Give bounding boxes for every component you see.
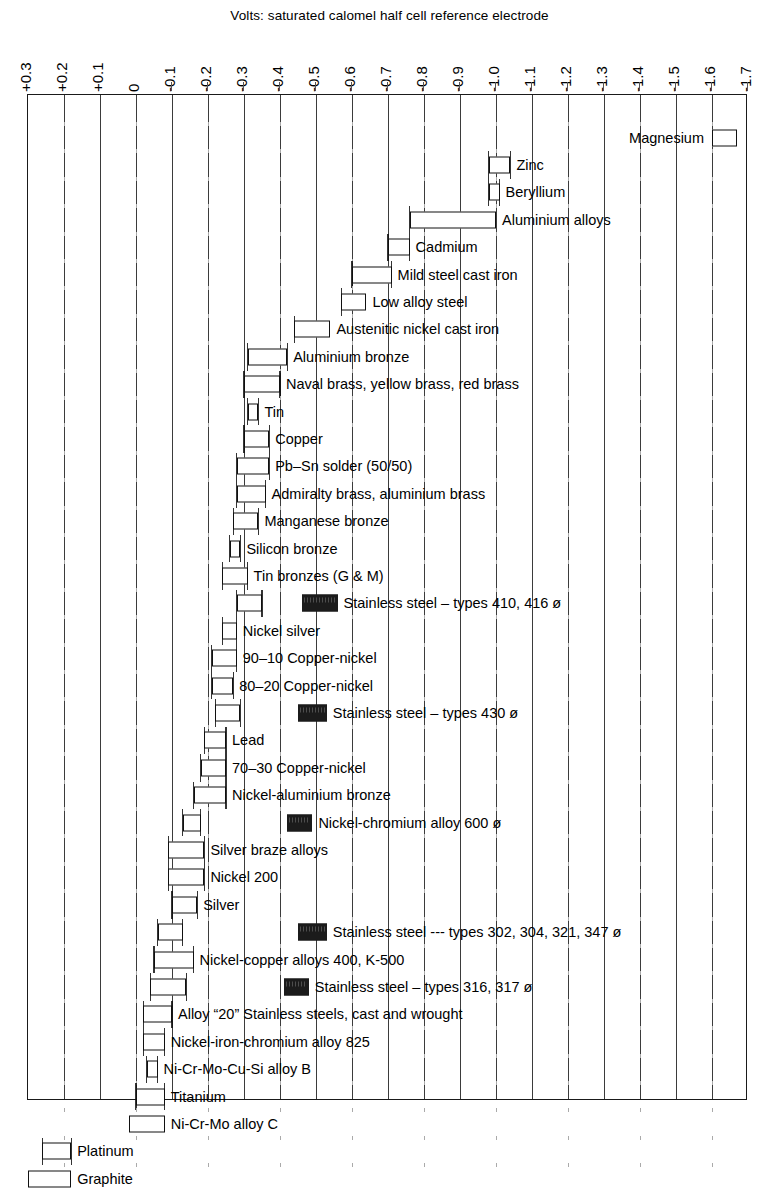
- row-label: Nickel-copper alloys 400, K-500: [200, 952, 405, 967]
- minor-tick-dot: [64, 259, 65, 263]
- active-range-bar[interactable]: [294, 321, 330, 338]
- bar-connector-stub: [294, 316, 295, 343]
- axis-tick-mark: [207, 82, 208, 91]
- minor-tick-dot: [424, 1054, 425, 1058]
- passive-range-bar[interactable]: [284, 979, 309, 996]
- minor-tick-dot: [712, 1163, 713, 1167]
- bar-connector-stub: [269, 453, 270, 480]
- minor-tick-dot: [640, 1108, 641, 1112]
- active-range-bar[interactable]: [388, 239, 410, 256]
- row-label: Manganese bronze: [264, 514, 388, 529]
- minor-tick-dot: [640, 1026, 641, 1030]
- bar-connector-stub: [269, 425, 270, 452]
- active-range-bar[interactable]: [410, 211, 496, 228]
- minor-tick-dot: [64, 560, 65, 564]
- active-range-bar[interactable]: [352, 266, 392, 283]
- minor-tick-dot: [352, 286, 353, 290]
- minor-tick-dot: [280, 889, 281, 893]
- minor-tick-dot: [424, 1081, 425, 1085]
- minor-tick-dot: [568, 451, 569, 455]
- active-range-bar[interactable]: [212, 650, 237, 667]
- active-range-bar[interactable]: [172, 896, 197, 913]
- bar-connector-stub: [236, 480, 237, 507]
- active-range-bar[interactable]: [237, 485, 266, 502]
- axis-tick-label: -0.6: [342, 66, 357, 92]
- minor-tick-dot: [424, 396, 425, 400]
- active-range-bar[interactable]: [222, 622, 236, 639]
- minor-tick-dot: [640, 670, 641, 674]
- minor-tick-dot: [208, 149, 209, 153]
- active-range-bar[interactable]: [42, 1143, 71, 1160]
- minor-tick-dot: [352, 122, 353, 126]
- minor-tick-dot: [640, 725, 641, 729]
- row-label: Stainless steel – types 430 ø: [333, 706, 518, 721]
- minor-tick-dot: [280, 588, 281, 592]
- minor-tick-dot: [640, 1054, 641, 1058]
- active-range-bar[interactable]: [248, 348, 288, 365]
- minor-tick-dot: [136, 1163, 137, 1167]
- bar-connector-stub: [258, 398, 259, 425]
- bar-connector-stub: [240, 535, 241, 562]
- active-range-bar[interactable]: [129, 1116, 165, 1133]
- minor-tick-dot: [136, 1136, 137, 1140]
- active-range-bar[interactable]: [168, 842, 204, 859]
- active-range-bar[interactable]: [201, 759, 226, 776]
- chart-row: Tin: [28, 398, 746, 425]
- active-range-bar[interactable]: [237, 595, 262, 612]
- active-range-bar[interactable]: [712, 129, 737, 146]
- minor-tick-dot: [352, 834, 353, 838]
- minor-tick-dot: [64, 780, 65, 784]
- active-range-bar[interactable]: [150, 979, 186, 996]
- active-range-bar[interactable]: [154, 951, 194, 968]
- active-range-bar[interactable]: [183, 814, 201, 831]
- active-range-bar[interactable]: [244, 376, 280, 393]
- minor-tick-dot: [424, 341, 425, 345]
- active-range-bar[interactable]: [28, 1170, 71, 1187]
- axis-tick-mark: [423, 82, 424, 91]
- active-range-bar[interactable]: [212, 677, 234, 694]
- passive-range-bar[interactable]: [302, 595, 338, 612]
- bar-connector-stub: [157, 919, 158, 946]
- minor-tick-dot: [352, 533, 353, 537]
- active-range-bar[interactable]: [489, 157, 511, 174]
- active-range-bar[interactable]: [143, 1006, 172, 1023]
- bar-connector-stub: [341, 288, 342, 315]
- axis-tick-mark: [351, 82, 352, 91]
- minor-tick-dot: [280, 862, 281, 866]
- passive-range-bar[interactable]: [298, 705, 327, 722]
- minor-tick-dot: [568, 396, 569, 400]
- axis-tick-mark: [315, 82, 316, 91]
- minor-tick-dot: [208, 423, 209, 427]
- chart-row: Silicon bronze: [28, 535, 746, 562]
- minor-tick-dot: [208, 369, 209, 373]
- minor-tick-dot: [280, 286, 281, 290]
- minor-tick-dot: [352, 341, 353, 345]
- minor-tick-dot: [496, 204, 497, 208]
- active-range-bar[interactable]: [168, 869, 204, 886]
- passive-range-bar[interactable]: [287, 814, 312, 831]
- active-range-bar[interactable]: [215, 705, 240, 722]
- minor-tick-dot: [640, 944, 641, 948]
- minor-tick-dot: [496, 506, 497, 510]
- active-range-bar[interactable]: [244, 431, 269, 448]
- minor-tick-dot: [424, 423, 425, 427]
- galvanic-series-plot-area: MagnesiumZincBerylliumAluminium alloysCa…: [27, 94, 747, 1100]
- passive-range-bar[interactable]: [298, 924, 327, 941]
- minor-tick-dot: [640, 588, 641, 592]
- active-range-bar[interactable]: [222, 568, 247, 585]
- minor-tick-dot: [712, 259, 713, 263]
- active-range-bar[interactable]: [204, 732, 226, 749]
- minor-tick-dot: [712, 478, 713, 482]
- active-range-bar[interactable]: [341, 294, 366, 311]
- active-range-bar[interactable]: [136, 1088, 165, 1105]
- active-range-bar[interactable]: [158, 924, 183, 941]
- active-range-bar[interactable]: [194, 787, 226, 804]
- active-range-bar[interactable]: [233, 513, 258, 530]
- minor-tick-dot: [712, 807, 713, 811]
- active-range-bar[interactable]: [143, 1033, 165, 1050]
- active-range-bar[interactable]: [237, 458, 269, 475]
- minor-tick-dot: [568, 1026, 569, 1030]
- minor-tick-dot: [352, 588, 353, 592]
- minor-tick-dot: [712, 1081, 713, 1085]
- minor-tick-dot: [496, 999, 497, 1003]
